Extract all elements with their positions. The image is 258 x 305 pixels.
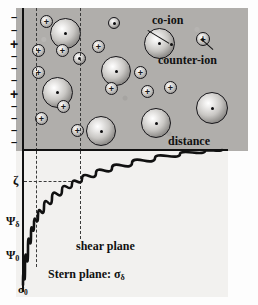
potential-axis: [22, 151, 24, 292]
counter-ion-circle: +: [164, 81, 177, 94]
counter-ion-circle: +: [57, 100, 70, 113]
co-ion-core-dot: [100, 130, 103, 133]
counter-ion-circle: +: [40, 15, 53, 28]
double-layer-figure: ––+–––+–––– +++++++++++++ co-ion counter…: [0, 0, 258, 305]
psi-delta-label: Ψδ: [6, 214, 20, 229]
counter-ion-circle: +: [92, 40, 105, 53]
co-ion-core-dot: [56, 91, 59, 94]
psi-zero-symbol: Ψ: [6, 248, 15, 262]
stern-plane-text: Stern plane: σ: [48, 267, 121, 281]
zeta-symbol: ζ: [13, 173, 18, 188]
sigma-zero-label: σ0: [18, 283, 28, 297]
co-ion-sphere: [141, 108, 171, 138]
co-ion-core-dot: [211, 107, 214, 110]
shear-plane-dashed-upper: [80, 8, 81, 151]
co-ion-label: co-ion: [152, 13, 183, 28]
stern-plane-dashed-upper: [36, 8, 37, 151]
psi-delta-symbol: Ψ: [6, 214, 15, 228]
distance-label: distance: [168, 134, 210, 149]
counter-ion-circle: +: [56, 44, 69, 57]
zeta-dashed-line: [24, 181, 81, 182]
counter-ion-leader-dot: [201, 38, 204, 41]
distance-axis: [22, 149, 228, 151]
counter-ion-circle: +: [105, 82, 118, 95]
psi-zero-subscript: 0: [15, 254, 19, 263]
counter-ion-circle: +: [134, 66, 147, 79]
psi-zero-label: Ψ0: [6, 248, 19, 263]
counter-ion-circle: +: [32, 44, 45, 57]
co-ion-core-dot: [115, 70, 118, 73]
ion-layer: +++++++++++++: [16, 8, 248, 151]
co-ion-core-dot: [113, 22, 116, 25]
co-ion-core-dot: [64, 32, 67, 35]
co-ion-sphere: [86, 116, 116, 146]
co-ion-core-dot: [155, 122, 158, 125]
counter-ion-circle: +: [32, 66, 45, 79]
stern-plane-subscript: δ: [121, 273, 125, 282]
counter-ion-label: counter-ion: [158, 53, 217, 68]
sigma-zero-subscript: 0: [24, 288, 28, 297]
shear-plane-dashed-lower: [80, 151, 81, 239]
co-ion-sphere: [196, 92, 228, 124]
shear-plane-label: shear plane: [76, 239, 135, 254]
stern-plane-label: Stern plane: σδ: [48, 267, 125, 282]
co-ion-sphere: [108, 17, 120, 29]
counter-ion-circle: +: [71, 124, 84, 137]
psi-delta-subscript: δ: [15, 220, 19, 229]
co-ion-sphere: [101, 56, 131, 86]
counter-ion-circle: +: [141, 85, 154, 98]
zeta-label: ζ: [13, 173, 18, 189]
co-ion-core-dot: [158, 42, 161, 45]
stern-plane-dashed-lower: [36, 151, 37, 267]
co-ion-leader-dot: [170, 43, 173, 46]
